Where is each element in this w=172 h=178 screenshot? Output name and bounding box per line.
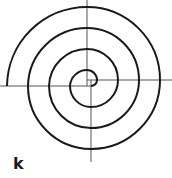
- spiral-curve: [7, 7, 160, 149]
- spiral-diagram: [0, 0, 172, 178]
- axes: [0, 0, 172, 162]
- figure-label: k: [13, 155, 24, 173]
